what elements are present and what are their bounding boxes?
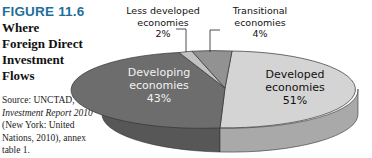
label-line: economies xyxy=(113,79,205,92)
label-line: economies xyxy=(108,17,218,29)
label-line: Developed xyxy=(250,68,340,81)
label-line: Developing xyxy=(113,66,205,79)
label-developing: Developing economies 43% xyxy=(113,66,205,105)
label-line: Less developed xyxy=(108,5,218,17)
label-value: 2% xyxy=(108,28,218,40)
label-less-developed: Less developed economies 2% xyxy=(108,5,218,40)
label-value: 43% xyxy=(113,92,205,105)
label-developed: Developed economies 51% xyxy=(250,68,340,107)
label-value: 51% xyxy=(250,94,340,107)
label-value: 4% xyxy=(218,28,302,40)
label-transitional: Transitional economies 4% xyxy=(218,5,302,40)
label-line: Transitional xyxy=(218,5,302,17)
label-line: economies xyxy=(250,81,340,94)
label-line: economies xyxy=(218,17,302,29)
